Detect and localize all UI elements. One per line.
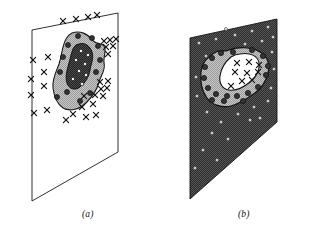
dot-marker bbox=[213, 91, 218, 96]
dot-marker bbox=[198, 42, 201, 45]
dot-marker bbox=[215, 38, 218, 41]
dot-marker bbox=[272, 36, 275, 39]
dot-marker bbox=[86, 53, 89, 56]
dot-marker bbox=[76, 34, 81, 39]
dot-marker bbox=[240, 98, 245, 103]
dot-marker bbox=[267, 26, 270, 29]
dot-marker bbox=[263, 72, 268, 77]
dot-marker bbox=[90, 36, 95, 41]
dot-marker bbox=[249, 119, 252, 122]
dot-marker bbox=[211, 132, 214, 135]
dot-marker bbox=[206, 111, 209, 114]
dot-marker bbox=[58, 70, 63, 75]
dot-marker bbox=[202, 149, 205, 152]
dot-marker bbox=[61, 55, 66, 60]
dot-marker bbox=[225, 28, 228, 31]
dot-marker bbox=[259, 117, 262, 120]
dot-marker bbox=[195, 76, 198, 79]
dot-marker bbox=[88, 91, 93, 96]
dot-marker bbox=[84, 73, 87, 76]
dot-marker bbox=[260, 53, 265, 58]
dot-marker bbox=[220, 121, 223, 124]
dot-marker bbox=[216, 159, 219, 162]
panel-b-plane-outline bbox=[190, 19, 277, 199]
panel-a-caption: (a) bbox=[82, 209, 94, 219]
dot-marker bbox=[261, 40, 264, 43]
dot-marker bbox=[78, 99, 83, 104]
dot-marker bbox=[237, 113, 240, 116]
figure-canvas bbox=[0, 0, 321, 243]
dot-marker bbox=[77, 69, 80, 72]
dot-marker bbox=[234, 93, 239, 98]
dot-marker bbox=[227, 138, 230, 141]
dot-marker bbox=[244, 43, 247, 46]
dot-marker bbox=[79, 49, 82, 52]
dot-marker bbox=[65, 90, 70, 95]
dot-marker bbox=[245, 90, 250, 95]
dot-marker bbox=[98, 58, 103, 63]
dot-marker bbox=[205, 85, 210, 90]
dot-marker bbox=[271, 51, 274, 54]
dot-marker bbox=[96, 44, 101, 49]
dot-marker bbox=[270, 87, 273, 90]
dot-marker bbox=[202, 64, 207, 69]
dot-marker bbox=[218, 50, 223, 55]
dot-marker bbox=[249, 47, 254, 52]
dot-marker bbox=[251, 30, 254, 33]
dot-marker bbox=[209, 55, 214, 60]
dot-marker bbox=[55, 95, 60, 100]
panel-a-group bbox=[28, 12, 118, 201]
dot-marker bbox=[234, 34, 237, 37]
dot-marker bbox=[71, 77, 74, 80]
dot-marker bbox=[83, 62, 86, 65]
dot-marker bbox=[221, 98, 226, 103]
dot-marker bbox=[74, 58, 77, 61]
dot-marker bbox=[267, 100, 270, 103]
figure-container: (a) (b) bbox=[0, 0, 321, 243]
dot-marker bbox=[94, 70, 99, 75]
dot-marker bbox=[196, 95, 199, 98]
dot-marker bbox=[201, 75, 206, 80]
dot-marker bbox=[265, 63, 270, 68]
dot-marker bbox=[80, 82, 83, 85]
dot-marker bbox=[255, 84, 260, 89]
dot-marker bbox=[224, 93, 229, 98]
panel-b-caption: (b) bbox=[238, 209, 250, 219]
dot-marker bbox=[230, 49, 235, 54]
dot-marker bbox=[66, 43, 71, 48]
dot-marker bbox=[194, 167, 197, 170]
dot-marker bbox=[273, 68, 276, 71]
dot-marker bbox=[205, 55, 208, 58]
panel-b-group bbox=[190, 19, 277, 199]
dot-marker bbox=[209, 97, 214, 102]
dot-marker bbox=[253, 106, 256, 109]
